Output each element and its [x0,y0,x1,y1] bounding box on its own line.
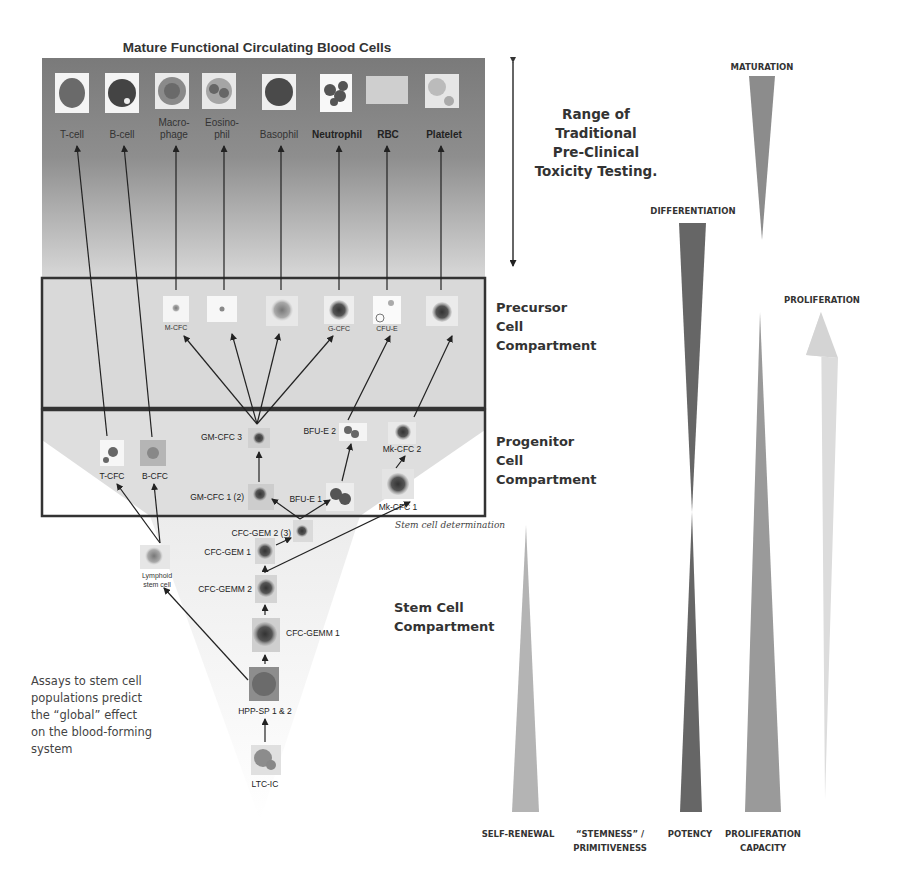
label-ltc-ic: LTC-IC [252,779,279,789]
svg-text:Assays to stem cell: Assays to stem cell [31,674,142,688]
label-cfc-gemm-1: CFC-GEMM 1 [286,628,340,638]
label-macrophage-2: phage [160,129,188,140]
label-basophil: Basophil [260,129,298,140]
label-macrophage-1: Macro- [158,117,189,128]
label-eosinophil-1: Eosino- [205,117,239,128]
svg-text:Range of: Range of [562,106,630,122]
label-gm-cfc-1-2: GM-CFC 1 (2) [190,492,244,502]
proliferation-capacity-triangle [745,312,781,812]
svg-text:on the blood-forming: on the blood-forming [31,725,152,739]
svg-text:Compartment: Compartment [496,472,597,487]
svg-text:the “global” effect: the “global” effect [31,708,138,722]
differentiation-triangle [679,223,706,512]
proliferation-capacity-label-1: PROLIFERATION [725,829,801,839]
label-hpp-sp: HPP-SP 1 & 2 [238,706,292,716]
label-b-cell: B-cell [109,129,134,140]
svg-text:Progenitor: Progenitor [496,434,575,449]
label-platelet: Platelet [426,129,462,140]
label-lymphoid-2: stem cell [143,581,171,588]
label-cfc-gem-1: CFC-GEM 1 [204,547,251,557]
maturation-label: MATURATION [731,62,794,72]
diagram-title: Mature Functional Circulating Blood Cell… [123,40,392,55]
label-eosinophil-2: phil [214,129,230,140]
stemness-label-2: PRIMITIVENESS [573,843,647,853]
label-g-cfc: G-CFC [328,325,350,332]
svg-text:Precursor: Precursor [496,300,568,315]
b-cell-image [108,79,136,107]
label-mk-cfc-1: Mk-CFC 1 [379,502,418,512]
toxicity-range-label: Range of Traditional Pre-Clinical Toxici… [535,106,658,179]
svg-text:Compartment: Compartment [496,338,597,353]
label-m-cfc: M-CFC [165,324,188,331]
svg-text:system: system [31,742,73,756]
svg-text:Cell: Cell [496,319,523,334]
label-mk-cfc-2: Mk-CFC 2 [383,444,422,454]
svg-text:Traditional: Traditional [555,125,637,141]
potency-label: POTENCY [668,829,713,839]
label-cfc-gem-2-3: CFC-GEM 2 (3) [232,528,292,538]
label-bfu-e-2: BFU-E 2 [303,426,336,436]
label-neutrophil: Neutrophil [312,129,362,140]
proliferation-capacity-label-2: CAPACITY [740,843,787,853]
basophil-image [265,78,293,106]
stem-compartment-label: Stem Cell Compartment [394,600,495,634]
svg-text:Pre-Clinical: Pre-Clinical [553,144,639,160]
potency-triangle [680,512,702,812]
label-rbc: RBC [377,129,399,140]
label-cfu-e: CFU-E [376,325,398,332]
label-b-cfc: B-CFC [142,471,168,481]
label-bfu-e-1: BFU-E 1 [289,494,322,504]
hematopoiesis-diagram: Mature Functional Circulating Blood Cell… [0,0,898,891]
differentiation-label: DIFFERENTIATION [650,206,735,216]
label-cfc-gemm-2: CFC-GEMM 2 [198,584,252,594]
precursor-compartment-label: Precursor Cell Compartment [496,300,597,353]
svg-text:Toxicity Testing.: Toxicity Testing. [535,163,658,179]
stem-cell-determination-label: Stem cell determination [395,520,505,530]
proliferation-label: PROLIFERATION [784,295,860,305]
self-renewal-triangle [512,525,539,812]
svg-text:Stem Cell: Stem Cell [394,600,464,615]
precursor-region-fill [42,278,485,408]
rbc-image [366,76,408,104]
maturation-triangle [749,76,775,240]
label-t-cfc: T-CFC [99,471,124,481]
t-cell-image [59,78,85,108]
svg-text:Compartment: Compartment [394,619,495,634]
svg-text:populations predict: populations predict [31,691,143,705]
progenitor-compartment-label: Progenitor Cell Compartment [496,434,597,487]
proliferation-arrowhead [806,312,838,358]
label-gm-cfc-3: GM-CFC 3 [201,432,242,442]
svg-text:Cell: Cell [496,453,523,468]
label-lymphoid-1: Lymphoid [142,572,172,580]
label-t-cell: T-cell [60,129,84,140]
self-renewal-label: SELF-RENEWAL [482,829,555,839]
proliferation-arrow-shape [806,312,838,800]
assay-note: Assays to stem cell populations predict … [31,674,152,756]
stemness-label-1: “STEMNESS” / [576,829,645,839]
